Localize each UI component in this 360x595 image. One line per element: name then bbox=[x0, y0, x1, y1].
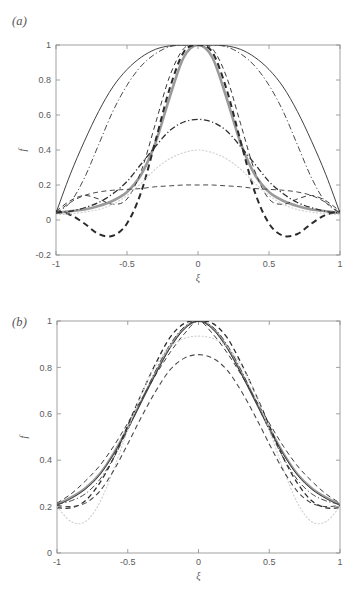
curve-light-dotted-b bbox=[57, 336, 340, 524]
curve-dash-dot-b bbox=[57, 321, 340, 504]
y-tick-label: 0.6 bbox=[39, 409, 52, 419]
y-tick-label: 1 bbox=[46, 40, 51, 50]
x-axis-label: ξ bbox=[196, 570, 201, 582]
y-axis-label: f bbox=[18, 434, 29, 438]
y-tick-label: 0.6 bbox=[38, 110, 51, 120]
y-tick-label: 0.8 bbox=[38, 75, 51, 85]
curve-thin-solid-parabola bbox=[56, 45, 340, 213]
y-tick-label: 0.2 bbox=[39, 502, 52, 512]
x-tick-label: 0 bbox=[196, 557, 201, 567]
y-tick-label: 0.4 bbox=[39, 455, 52, 465]
x-tick-label: 1 bbox=[337, 557, 342, 567]
curve-dash-dot-wide bbox=[56, 45, 340, 213]
figure-container: (a) -1-0.500.51-0.200.20.40.60.81ξf (b) … bbox=[0, 0, 360, 595]
curve-black-solid-thin bbox=[57, 321, 340, 505]
y-tick-label: 0.4 bbox=[38, 145, 51, 155]
plot-frame bbox=[56, 45, 340, 255]
x-tick-label: -1 bbox=[52, 259, 60, 269]
panel-b: (b) -1-0.500.5100.20.40.60.81ξf bbox=[0, 295, 360, 595]
x-tick-label: 0.5 bbox=[263, 557, 276, 567]
curves-group bbox=[56, 45, 340, 237]
panel-a-plot: -1-0.500.51-0.200.20.40.60.81ξf bbox=[0, 0, 360, 300]
x-axis-label: ξ bbox=[196, 272, 201, 284]
y-axis-label: f bbox=[17, 147, 28, 151]
y-tick-label: -0.2 bbox=[35, 250, 51, 260]
x-tick-label: 1 bbox=[337, 259, 342, 269]
x-tick-label: 0 bbox=[195, 259, 200, 269]
y-tick-label: 0 bbox=[47, 548, 52, 558]
x-tick-label: 0.5 bbox=[263, 259, 276, 269]
plot-frame bbox=[57, 321, 340, 553]
y-tick-label: 1 bbox=[47, 316, 52, 326]
curve-thick-gray-solid bbox=[56, 45, 340, 213]
panel-a: (a) -1-0.500.51-0.200.20.40.60.81ξf bbox=[0, 0, 360, 300]
x-tick-label: -0.5 bbox=[120, 557, 136, 567]
curve-gray-thick-solid bbox=[57, 321, 340, 504]
y-tick-label: 0 bbox=[46, 215, 51, 225]
curve-thin-dashed-narrow bbox=[56, 45, 340, 212]
x-tick-label: -1 bbox=[53, 557, 61, 567]
panel-b-plot: -1-0.500.5100.20.40.60.81ξf bbox=[0, 295, 360, 595]
y-tick-label: 0.8 bbox=[39, 363, 52, 373]
curves-group bbox=[57, 321, 340, 524]
curve-heavy-black-dashed bbox=[56, 45, 340, 237]
y-tick-label: 0.2 bbox=[38, 180, 51, 190]
x-tick-label: -0.5 bbox=[119, 259, 135, 269]
